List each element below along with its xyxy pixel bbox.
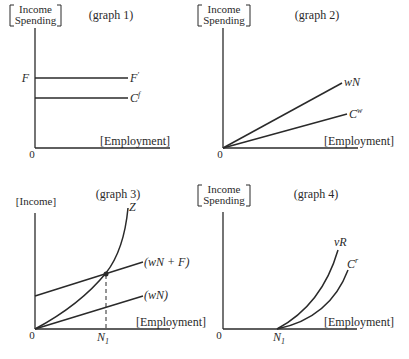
graph-title: (graph 1) bbox=[89, 8, 133, 22]
origin-label: 0 bbox=[29, 148, 35, 160]
y-tick-F: F bbox=[21, 71, 30, 85]
curve-Z bbox=[35, 208, 128, 329]
x-axis-label: [Employment] bbox=[136, 315, 206, 329]
keynes-diagram-figure: Income Spending (graph 1) [Employment] 0… bbox=[0, 0, 409, 359]
curve-wN bbox=[35, 296, 143, 329]
y-axis-label-spending: Spending bbox=[203, 194, 245, 206]
graph-title: (graph 3) bbox=[96, 187, 140, 201]
curve-label-F-prime: F′ bbox=[129, 71, 139, 85]
bracket-right bbox=[246, 185, 250, 206]
intersection-point bbox=[104, 272, 109, 277]
x-axis-label: [Employment] bbox=[324, 315, 394, 329]
graph-title: (graph 4) bbox=[294, 187, 338, 201]
graph-2: Income Spending (graph 2) [Employment] 0… bbox=[198, 3, 394, 160]
origin-label: 0 bbox=[217, 148, 223, 160]
curve-label-C-r: Cr bbox=[347, 256, 359, 271]
curve-label-wN: wN bbox=[344, 75, 361, 89]
curve-label-wN: (wN) bbox=[144, 288, 168, 302]
curve-label-vR: vR bbox=[334, 235, 347, 249]
x-tick-N1: N1 bbox=[272, 330, 285, 346]
graph-4: Income Spending (graph 4) [Employment] 0… bbox=[198, 183, 394, 346]
x-axis-label: [Employment] bbox=[324, 134, 394, 148]
bracket-right bbox=[57, 5, 61, 26]
y-axis-label-spending: Spending bbox=[203, 14, 245, 26]
graph-title: (graph 2) bbox=[295, 8, 339, 22]
curve-label-wN-plus-F: (wN + F) bbox=[144, 255, 189, 269]
bracket-left bbox=[198, 185, 202, 206]
bracket-left bbox=[10, 5, 14, 26]
graph-1: Income Spending (graph 1) [Employment] 0… bbox=[10, 3, 170, 160]
bracket-right bbox=[246, 5, 250, 26]
x-tick-N1: N1 bbox=[96, 330, 109, 346]
origin-label: 0 bbox=[29, 329, 35, 341]
y-axis-label-spending: Spending bbox=[15, 14, 57, 26]
y-axis-label-income: [Income] bbox=[16, 195, 56, 207]
graph-3: [Income] (graph 3) [Employment] 0 Z (wN … bbox=[16, 187, 206, 346]
curve-label-C-w: Cw bbox=[349, 106, 363, 121]
bracket-left bbox=[198, 5, 202, 26]
origin-label: 0 bbox=[216, 329, 222, 341]
curve-label-Z: Z bbox=[129, 200, 136, 214]
x-axis-label: [Employment] bbox=[100, 134, 170, 148]
curve-label-C-f: Cf bbox=[130, 90, 142, 105]
